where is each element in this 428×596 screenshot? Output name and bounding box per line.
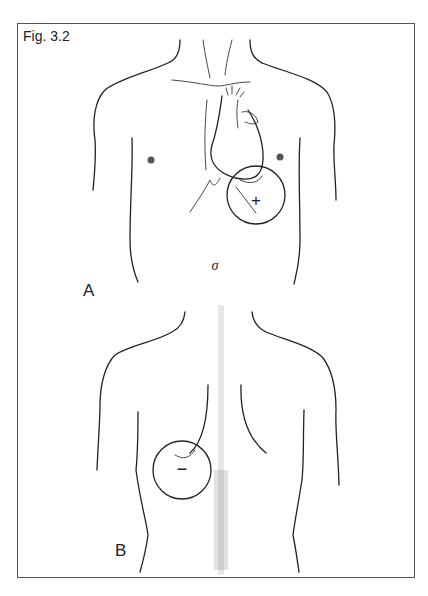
plus-marker: + (251, 191, 261, 210)
sex-symbol: σ (212, 258, 220, 273)
panel-label-a: A (83, 281, 94, 301)
minus-marker: − (177, 459, 188, 479)
spine-stipple (214, 305, 228, 575)
panel-a-torso: + σ (93, 40, 336, 284)
figure-illustration: + σ − (0, 0, 428, 596)
panel-b-torso: − (97, 305, 339, 575)
panel-label-b: B (115, 541, 126, 561)
